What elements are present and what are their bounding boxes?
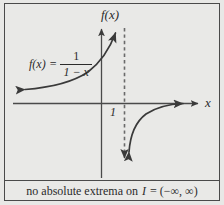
fraction-numerator: 1 — [69, 50, 83, 64]
equation-lhs: f(x) — [29, 58, 46, 70]
curve-right-branch — [129, 104, 183, 153]
caption-divider — [5, 180, 219, 181]
figure-container: f(x) x 1 f(x) = 1 1 − x no absolute extr… — [0, 0, 224, 205]
fraction-denominator: 1 − x — [60, 65, 91, 79]
y-axis-label: f(x) — [101, 8, 119, 21]
caption-equals: = — [150, 184, 157, 198]
x-tick-label-one: 1 — [110, 106, 116, 118]
caption-text-before: no absolute extrema on — [26, 184, 138, 198]
equation-fraction: 1 1 − x — [60, 50, 91, 78]
equation-equals: = — [50, 58, 57, 70]
plot-area — [0, 0, 224, 205]
x-axis-label: x — [205, 96, 211, 109]
figure-caption: no absolute extrema on I = (−∞, ∞) — [5, 184, 219, 199]
caption-variable: I — [141, 184, 147, 198]
equation-annotation: f(x) = 1 1 − x — [29, 50, 92, 78]
caption-interval: (−∞, ∞) — [160, 184, 198, 198]
